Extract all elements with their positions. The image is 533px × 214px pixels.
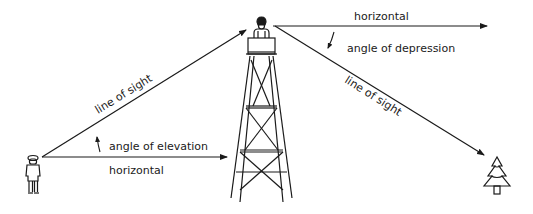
- tree-icon: [484, 157, 510, 194]
- line-of-sight-elevation: [42, 30, 246, 157]
- elevation-depression-diagram: line of sight angle of elevation horizon…: [0, 0, 533, 214]
- horizontal-bottom-label: horizontal: [109, 164, 164, 177]
- angle-of-elevation-label: angle of elevation: [109, 140, 208, 153]
- line-of-sight-right-label: line of sight: [342, 74, 404, 120]
- person-icon: [26, 156, 40, 194]
- person-icon: [254, 17, 269, 38]
- angle-of-elevation-arrow: [97, 137, 100, 152]
- horizontal-top-label: horizontal: [354, 10, 409, 23]
- lookout-tower-icon: [231, 38, 292, 202]
- angle-of-depression-arrow: [328, 32, 334, 48]
- line-of-sight-left-label: line of sight: [93, 71, 155, 116]
- angle-of-depression-label: angle of depression: [347, 42, 455, 55]
